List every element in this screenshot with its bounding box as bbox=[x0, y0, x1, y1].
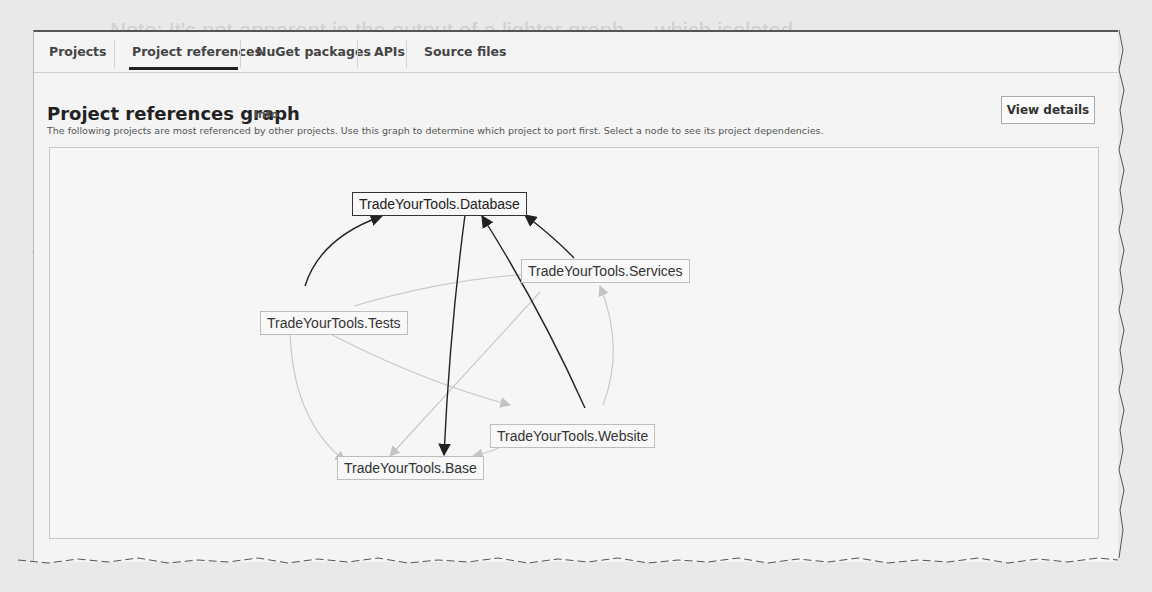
graph-node-services[interactable]: TradeYourTools.Services bbox=[521, 259, 690, 283]
view-details-button[interactable]: View details bbox=[1001, 96, 1095, 124]
screenshot-panel: Projects Project references NuGet packag… bbox=[33, 30, 1118, 562]
tab-bar: Projects Project references NuGet packag… bbox=[34, 32, 1118, 73]
section-description: The following projects are most referenc… bbox=[47, 125, 823, 136]
tab-source-files[interactable]: Source files bbox=[424, 44, 506, 59]
tab-divider bbox=[114, 40, 115, 68]
torn-edge-bottom bbox=[18, 556, 1118, 566]
tab-nuget-packages[interactable]: NuGet packages bbox=[256, 44, 371, 59]
info-link[interactable]: Info bbox=[254, 108, 278, 121]
graph-edges bbox=[50, 148, 1098, 538]
graph-node-database[interactable]: TradeYourTools.Database bbox=[352, 192, 527, 216]
project-references-graph[interactable]: TradeYourTools.Database TradeYourTools.S… bbox=[49, 147, 1099, 539]
tab-divider bbox=[406, 40, 407, 68]
tab-projects[interactable]: Projects bbox=[49, 44, 107, 59]
torn-edge-right bbox=[1117, 30, 1127, 560]
graph-node-tests[interactable]: TradeYourTools.Tests bbox=[260, 311, 408, 335]
graph-node-base[interactable]: TradeYourTools.Base bbox=[337, 456, 484, 480]
tab-divider bbox=[240, 40, 241, 68]
tab-apis[interactable]: APIs bbox=[374, 44, 405, 59]
tab-project-references[interactable]: Project references bbox=[132, 44, 262, 59]
tab-divider bbox=[357, 40, 358, 68]
active-tab-indicator bbox=[129, 67, 238, 70]
graph-node-website[interactable]: TradeYourTools.Website bbox=[490, 424, 655, 448]
